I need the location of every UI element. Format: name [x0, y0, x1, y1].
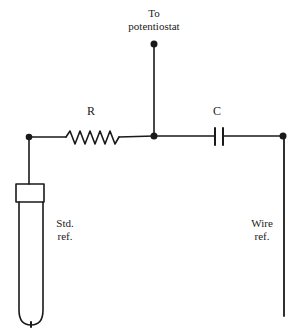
potentiostat-label-line1: To	[114, 7, 194, 20]
wire-ref-label: Wire ref.	[247, 217, 277, 243]
std-ref-cap	[16, 184, 44, 202]
resistor-label: R	[84, 105, 98, 118]
wire-ref-label-line2: ref.	[247, 230, 277, 243]
capacitor-label: C	[210, 105, 224, 118]
wire-ref-label-line1: Wire	[247, 217, 277, 230]
potentiostat-label: To potentiostat	[114, 7, 194, 33]
right-node	[280, 133, 287, 140]
std-ref-label-line2: ref.	[50, 230, 80, 243]
potentiostat-terminal-node	[151, 41, 158, 48]
potentiostat-label-line2: potentiostat	[114, 20, 194, 33]
std-ref-label-line1: Std.	[50, 217, 80, 230]
wire-r-junction	[119, 136, 154, 137]
resistor-symbol	[66, 131, 119, 144]
circuit-wiring	[0, 0, 300, 336]
std-ref-tube	[19, 202, 43, 325]
std-ref-label: Std. ref.	[50, 217, 80, 243]
junction-node	[151, 133, 158, 140]
circuit-diagram: To potentiostat R C Std. ref. Wire ref.	[0, 0, 300, 336]
left-node	[26, 134, 33, 141]
